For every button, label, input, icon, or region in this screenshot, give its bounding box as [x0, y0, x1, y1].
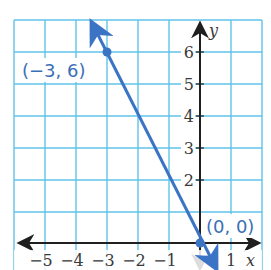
x-tick-neg1: −1 [153, 251, 177, 270]
x-tick-labels: −5 −4 −3 −2 −1 1 [14, 250, 262, 270]
x-tick-neg3: −3 [91, 251, 115, 270]
y-tick-6: 6 [184, 43, 194, 62]
y-tick-4: 4 [184, 107, 194, 126]
point-label-neg3-6: (−3, 6) [22, 60, 85, 81]
y-tick-5: 5 [184, 75, 194, 94]
x-tick-neg5: −5 [29, 251, 53, 270]
x-tick-neg4: −4 [60, 251, 84, 270]
plotted-line [92, 23, 216, 268]
x-tick-1: 1 [226, 251, 236, 270]
x-axis-label: x [246, 251, 255, 270]
point-origin [196, 239, 205, 248]
coordinate-plane: 6 5 4 3 2 −5 −4 −3 −2 −1 1 y x (−3, 6) (… [0, 0, 271, 270]
x-tick-neg2: −2 [122, 251, 146, 270]
y-tick-3: 3 [184, 139, 194, 158]
point-label-origin: (0, 0) [206, 216, 254, 237]
point-neg3-6 [103, 48, 112, 57]
y-tick-labels: 6 5 4 3 2 [181, 42, 195, 190]
y-axis-label: y [208, 21, 219, 40]
y-tick-2: 2 [184, 171, 194, 190]
